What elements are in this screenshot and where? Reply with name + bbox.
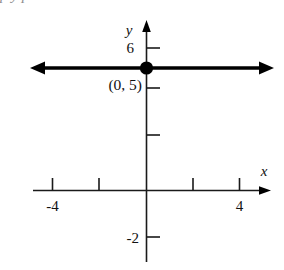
x-axis-label: x [260, 163, 268, 179]
plotted-point-0-5 [140, 61, 153, 74]
x-tick-label-4: 4 [236, 198, 244, 214]
x-axis-arrow-icon [259, 186, 271, 195]
y-axis [142, 20, 160, 262]
line-right-arrow-icon [259, 62, 274, 75]
graph-figure: p y p [0, 0, 284, 270]
y-axis-arrow-icon [142, 20, 151, 32]
line-left-arrow-icon [30, 62, 45, 75]
point-label-0-5: (0, 5) [108, 76, 142, 94]
coordinate-plane: y x 6 -2 -4 4 (0, 5) [0, 0, 284, 270]
x-tick-label-neg4: -4 [46, 198, 59, 214]
y-axis-label: y [124, 22, 133, 38]
y-tick-label-6: 6 [127, 40, 135, 56]
x-axis [33, 178, 271, 195]
y-tick-label-neg2: -2 [127, 230, 140, 246]
